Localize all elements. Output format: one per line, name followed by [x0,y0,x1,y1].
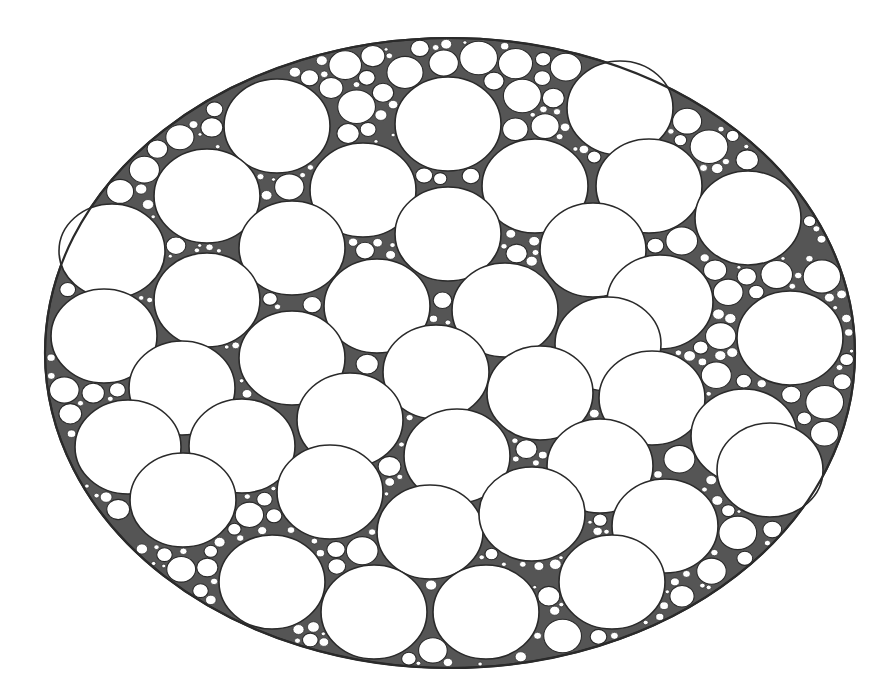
small-circle [215,145,220,149]
small-circle [560,123,570,131]
small-circle [166,125,194,150]
small-circle [761,261,793,289]
small-circle [77,400,83,405]
small-circle [94,493,99,498]
small-circle [429,50,458,76]
small-circle [147,140,168,158]
small-circle [216,249,221,253]
small-circle [700,164,708,171]
small-circle [534,71,551,86]
small-circle [319,77,343,98]
small-circle [673,108,702,134]
small-circle [683,570,691,577]
small-circle [559,556,563,560]
small-circle [806,386,844,420]
small-circle [501,244,507,250]
small-circle [538,451,547,459]
small-circle [232,342,240,349]
small-circle [713,309,725,319]
small-circle [803,216,815,227]
small-circle [429,315,437,322]
small-circle [356,242,375,259]
small-circle [587,151,601,163]
small-circle [261,191,272,201]
small-circle [535,52,550,66]
large-circle [130,453,236,547]
small-circle [654,471,662,479]
small-circle [274,304,280,310]
small-circle [460,41,498,75]
small-circle [302,633,318,647]
small-circle [559,602,564,606]
small-circle [107,396,113,401]
small-circle [307,165,313,171]
small-circle [348,238,357,246]
small-circle [711,549,718,555]
small-circle [498,48,532,78]
small-circle [684,351,696,362]
small-circle [416,168,433,183]
small-circle [593,514,607,526]
small-circle [391,133,395,137]
small-circle [386,251,396,260]
small-circle [484,72,504,90]
small-circle [142,200,153,210]
small-circle [189,121,198,129]
small-circle [198,133,202,137]
small-circle [316,550,324,557]
small-circle [713,279,743,305]
small-circle [201,118,223,138]
small-circle [193,584,209,598]
small-circle [725,313,736,323]
small-circle [540,106,548,113]
large-circle [154,253,260,347]
small-circle [198,244,202,248]
small-circle [529,236,540,246]
small-circle [67,430,75,438]
small-circle [224,345,229,349]
small-circle [797,412,811,425]
small-circle [782,386,801,403]
small-circle [722,505,735,517]
small-circle [406,414,413,420]
small-circle [210,578,217,585]
small-circle [197,558,218,577]
small-circle [387,56,423,88]
small-circle [512,456,519,462]
small-circle [463,41,467,45]
small-circle [711,163,723,173]
small-circle [544,619,582,653]
small-circle [736,150,759,170]
small-circle [526,256,537,266]
small-circle [532,249,539,255]
small-circle [840,353,854,365]
small-circle [275,174,304,200]
small-circle [257,492,273,506]
small-circle [757,380,766,388]
small-circle [388,100,398,109]
small-circle [817,235,826,243]
small-circle [384,492,389,496]
small-circle [206,102,223,117]
small-circle [139,296,144,301]
small-circle [610,632,618,639]
small-circle [228,523,241,535]
small-circle [168,254,172,258]
large-circle [695,171,801,265]
small-circle [384,48,388,52]
small-circle [321,632,325,636]
small-circle [503,118,528,141]
small-circle [590,629,607,644]
small-circle [239,379,244,383]
small-circle [271,178,275,182]
small-circle [166,237,186,254]
small-circle [303,297,322,313]
small-circle [833,306,838,310]
small-circle [194,248,199,253]
small-circle [373,238,383,246]
small-circle [162,564,166,568]
small-circle [532,460,539,466]
small-circle [356,354,378,374]
small-circle [425,580,436,590]
small-circle [501,43,509,50]
